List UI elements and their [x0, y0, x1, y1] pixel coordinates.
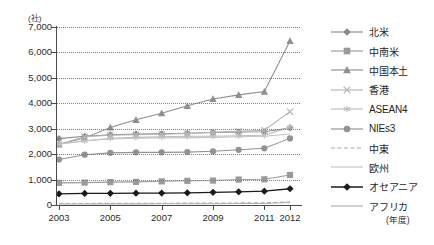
legend-marker-line-icon — [330, 161, 364, 173]
series-8 — [57, 185, 294, 197]
series-2 — [57, 37, 294, 147]
data-point — [209, 189, 216, 196]
x-tick-mark — [162, 205, 163, 210]
legend-label: 欧州 — [364, 160, 389, 175]
legend-marker-circle-icon — [330, 123, 364, 135]
y-axis-tick-3000: 3,000 — [6, 124, 52, 134]
legend-marker-dashed-line-icon — [330, 142, 364, 154]
series-line — [59, 138, 290, 159]
y-tick-mark — [51, 103, 57, 104]
x-tick-mark — [290, 205, 291, 210]
data-point — [57, 156, 62, 162]
x-axis-tick-2007: 2007 — [151, 212, 172, 223]
legend-item-9[interactable]: アフリカ — [330, 197, 434, 216]
data-point — [286, 185, 293, 192]
y-axis-tick-2000: 2,000 — [6, 149, 52, 159]
x-axis-tick-2011: 2011 — [254, 212, 274, 223]
series-5 — [57, 135, 293, 162]
data-point — [287, 172, 293, 178]
legend-marker-triangle-icon — [330, 64, 364, 76]
gridline — [57, 78, 300, 79]
x-tick-mark — [264, 205, 265, 210]
legend-label: 中東 — [364, 141, 389, 156]
legend-label: 香港 — [364, 82, 389, 97]
legend-item-7[interactable]: 欧州 — [330, 158, 434, 177]
x-tick-mark — [59, 205, 60, 210]
data-point — [184, 189, 191, 196]
legend-item-8[interactable]: オセアニア — [330, 177, 434, 196]
data-point — [210, 177, 216, 183]
legend-item-6[interactable]: 中東 — [330, 138, 434, 157]
series-0 — [57, 124, 294, 142]
data-point — [57, 180, 62, 186]
y-tick-mark — [51, 78, 57, 79]
data-point — [287, 135, 293, 141]
legend-label: ASEAN4 — [364, 104, 407, 115]
y-tick-mark — [51, 205, 57, 206]
data-point — [235, 188, 242, 195]
gridline — [57, 129, 300, 130]
y-tick-mark — [51, 52, 57, 53]
chart-legend: 北米中南米中国本土香港ASEAN4NIEs3中東欧州オセアニアアフリカ — [330, 22, 434, 216]
y-axis-tick-0: 0 — [6, 200, 52, 210]
gridline — [57, 27, 300, 28]
chart-figure: (社) 7,0006,0005,0004,0003,0002,0001,0000… — [0, 0, 434, 245]
legend-marker-line-icon — [330, 200, 364, 212]
data-point — [132, 190, 139, 197]
y-tick-mark — [51, 129, 57, 130]
gridline — [57, 103, 300, 104]
x-tick-mark — [213, 205, 214, 210]
legend-marker-square-icon — [330, 45, 364, 57]
y-tick-mark — [51, 180, 57, 181]
legend-item-3[interactable]: 香港 — [330, 80, 434, 99]
legend-marker-x-icon — [330, 84, 364, 96]
legend-marker-star-icon — [330, 103, 364, 115]
y-axis-tick-6000: 6,000 — [6, 48, 52, 58]
data-point — [158, 189, 165, 196]
data-point — [261, 88, 268, 95]
legend-label: オセアニア — [364, 179, 418, 194]
data-point — [57, 190, 63, 197]
legend-item-2[interactable]: 中国本土 — [330, 61, 434, 80]
chart-series-svg — [57, 27, 300, 205]
gridline — [57, 52, 300, 53]
legend-item-5[interactable]: NIEs3 — [330, 119, 434, 138]
y-axis-tick-1000: 1,000 — [6, 175, 52, 185]
x-axis-tick-2012: 2012 — [279, 212, 300, 223]
legend-item-4[interactable]: ASEAN4 — [330, 100, 434, 119]
data-point — [286, 37, 293, 44]
y-tick-mark — [51, 154, 57, 155]
legend-marker-diamond-icon — [330, 26, 364, 38]
y-axis-tick-7000: 7,000 — [6, 22, 52, 32]
y-axis-tick-5000: 5,000 — [6, 73, 52, 83]
legend-label: アフリカ — [364, 199, 408, 214]
data-point — [287, 109, 293, 115]
legend-marker-filled-diamond-icon — [330, 181, 364, 193]
legend-label: 中国本土 — [364, 63, 408, 78]
series-line — [59, 189, 290, 194]
gridline — [57, 180, 300, 181]
legend-item-1[interactable]: 中南米 — [330, 41, 434, 60]
y-axis-tick-labels: 7,0006,0005,0004,0003,0002,0001,0000 — [0, 0, 52, 245]
data-point — [261, 145, 267, 151]
legend-label: 中南米 — [364, 44, 398, 59]
data-point — [107, 190, 114, 197]
gridline — [57, 154, 300, 155]
legend-item-0[interactable]: 北米 — [330, 22, 434, 41]
x-axis-tick-2005: 2005 — [100, 212, 121, 223]
x-tick-mark — [110, 205, 111, 210]
data-point — [81, 190, 88, 197]
data-point — [261, 188, 268, 195]
x-axis-tick-2009: 2009 — [202, 212, 223, 223]
y-tick-mark — [51, 27, 57, 28]
legend-label: 北米 — [364, 24, 389, 39]
x-axis-tick-2003: 2003 — [48, 212, 69, 223]
y-axis-tick-4000: 4,000 — [6, 99, 52, 109]
data-point — [236, 147, 242, 153]
plot-area — [57, 27, 300, 205]
legend-label: NIEs3 — [364, 123, 395, 134]
